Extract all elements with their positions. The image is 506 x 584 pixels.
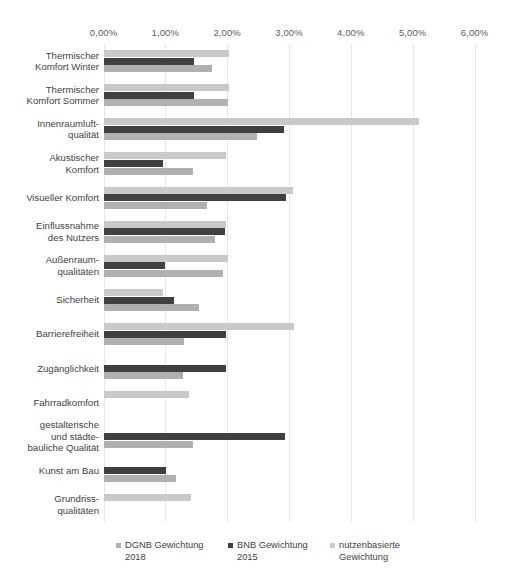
x-axis-tick-4: 4,00% <box>337 27 364 38</box>
x-axis-tick-3: 3,00% <box>275 27 302 38</box>
bar-series-1 <box>104 365 226 372</box>
bar-series-1 <box>104 467 166 474</box>
bar-group <box>104 385 475 419</box>
legend-item-0[interactable]: DGNB Gewichtung 2018 <box>116 540 204 563</box>
bar-series-1 <box>104 297 174 304</box>
x-axis-tick-1: 1,00% <box>152 27 179 38</box>
bar-series-2 <box>104 494 192 501</box>
legend-swatch-icon <box>116 543 121 548</box>
category-label: Kunst am Bau <box>3 465 99 477</box>
bar-group <box>104 283 475 317</box>
category-label: Sicherheit <box>3 294 99 306</box>
bar-series-0 <box>104 168 193 175</box>
bar-series-1 <box>104 126 285 133</box>
bar-series-2 <box>104 289 163 296</box>
bar-series-0 <box>104 475 177 482</box>
bar-group <box>104 146 475 180</box>
gridline-6 <box>475 44 476 522</box>
category-label: Visueller Komfort <box>3 192 99 204</box>
x-axis-tick-6: 6,00% <box>461 27 488 38</box>
bar-group <box>104 249 475 283</box>
bar-series-0 <box>104 133 257 140</box>
category-label: Innenraumluft- qualität <box>3 118 99 141</box>
bar-group <box>104 454 475 488</box>
bar-chart: 0,00%1,00%2,00%3,00%4,00%5,00%6,00% Ther… <box>0 0 506 584</box>
x-axis-tick-2: 2,00% <box>213 27 240 38</box>
legend-item-1[interactable]: BNB Gewichtung 2015 <box>228 540 308 563</box>
category-label: Thermischer Komfort Sommer <box>3 84 99 107</box>
bar-series-0 <box>104 270 223 277</box>
y-axis-category-labels: Thermischer Komfort WinterThermischer Ko… <box>0 44 99 522</box>
bar-series-2 <box>104 50 230 57</box>
legend-item-2[interactable]: nutzenbasierte Gewichtung <box>330 540 400 563</box>
bar-series-2 <box>104 221 226 228</box>
x-axis-tick-labels: 0,00%1,00%2,00%3,00%4,00%5,00%6,00% <box>0 27 506 41</box>
bar-series-2 <box>104 323 294 330</box>
bar-group <box>104 420 475 454</box>
x-axis-tick-0: 0,00% <box>90 27 117 38</box>
bar-group <box>104 351 475 385</box>
bar-group <box>104 215 475 249</box>
legend-label: DGNB Gewichtung 2018 <box>125 540 204 563</box>
category-label: Einflussnahme des Nutzers <box>3 220 99 243</box>
bar-series-1 <box>104 58 194 65</box>
plot-area <box>104 44 475 522</box>
legend-swatch-icon <box>330 543 335 548</box>
bar-series-2 <box>104 152 226 159</box>
category-label: Fahrradkomfort <box>3 397 99 409</box>
category-label: Grundriss- qualitäten <box>3 493 99 516</box>
bar-series-0 <box>104 99 228 106</box>
bar-group <box>104 317 475 351</box>
bar-series-0 <box>104 372 183 379</box>
bar-series-2 <box>104 391 189 398</box>
chart-legend: DGNB Gewichtung 2018BNB Gewichtung 2015n… <box>0 540 506 576</box>
bar-series-0 <box>104 65 212 72</box>
bar-series-1 <box>104 433 286 440</box>
bar-series-2 <box>104 84 230 91</box>
bar-series-0 <box>104 202 207 209</box>
x-axis-tick-5: 5,00% <box>399 27 426 38</box>
bar-series-0 <box>104 338 184 345</box>
legend-label: BNB Gewichtung 2015 <box>237 540 308 563</box>
category-label: Außenraum- qualitäten <box>3 254 99 277</box>
bar-series-1 <box>104 160 163 167</box>
category-label: Akustischer Komfort <box>3 152 99 175</box>
bar-series-0 <box>104 236 215 243</box>
bar-series-2 <box>104 187 294 194</box>
bar-series-1 <box>104 262 165 269</box>
bar-group <box>104 44 475 78</box>
bar-series-1 <box>104 194 286 201</box>
bar-group <box>104 488 475 522</box>
category-label: Barrierefreiheit <box>3 328 99 340</box>
legend-swatch-icon <box>228 543 233 548</box>
category-label: gestalterische und städte- bauliche Qual… <box>3 419 99 454</box>
bar-group <box>104 78 475 112</box>
category-label: Zugänglichkeit <box>3 363 99 375</box>
bar-series-1 <box>104 92 194 99</box>
bar-series-2 <box>104 255 228 262</box>
bar-group <box>104 181 475 215</box>
bar-series-0 <box>104 441 193 448</box>
category-label: Thermischer Komfort Winter <box>3 50 99 73</box>
bar-series-1 <box>104 228 225 235</box>
legend-label: nutzenbasierte Gewichtung <box>339 540 400 563</box>
bar-series-0 <box>104 304 199 311</box>
bar-series-2 <box>104 118 419 125</box>
bar-group <box>104 112 475 146</box>
bar-series-1 <box>104 331 226 338</box>
